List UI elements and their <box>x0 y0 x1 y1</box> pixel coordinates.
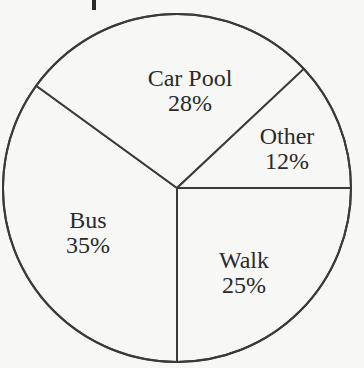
slice-label-other: Other 12% <box>260 124 315 174</box>
slice-percent: 28% <box>148 91 233 116</box>
slice-percent: 35% <box>66 233 110 258</box>
slice-name: Walk <box>219 248 269 273</box>
slice-name: Car Pool <box>148 66 233 91</box>
pie-chart <box>0 0 364 368</box>
slice-percent: 25% <box>219 273 269 298</box>
slice-name: Bus <box>66 208 110 233</box>
slice-name: Other <box>260 124 315 149</box>
slice-label-walk: Walk 25% <box>219 248 269 298</box>
slice-label-carpool: Car Pool 28% <box>148 66 233 116</box>
slice-label-bus: Bus 35% <box>66 208 110 258</box>
slice-percent: 12% <box>260 149 315 174</box>
